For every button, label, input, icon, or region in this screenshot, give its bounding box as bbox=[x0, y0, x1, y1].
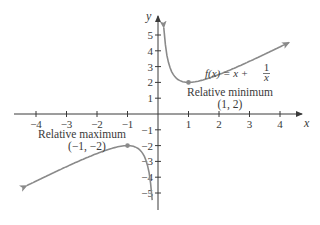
y-tick-label: −1 bbox=[141, 124, 153, 136]
y-tick-label: −2 bbox=[141, 140, 153, 152]
y-axis-label: y bbox=[145, 9, 152, 23]
x-axis-label: x bbox=[303, 116, 310, 130]
function-label-denominator: x bbox=[263, 71, 269, 83]
function-label-lhs: f(x) = x + bbox=[205, 67, 248, 80]
x-tick-label: 4 bbox=[277, 118, 283, 130]
y-tick-label: 5 bbox=[148, 29, 154, 41]
relative-minimum-label: Relative minimum bbox=[187, 86, 273, 98]
relative-maximum-point bbox=[125, 143, 130, 148]
x-tick-label: 3 bbox=[247, 118, 253, 130]
curve-negative-branch bbox=[27, 146, 152, 201]
relative-minimum-coords: (1, 2) bbox=[218, 98, 243, 111]
x-tick-label: 1 bbox=[186, 118, 192, 130]
y-tick-label: 4 bbox=[148, 45, 154, 57]
function-label: f(x) = x + 1 x bbox=[205, 61, 270, 83]
x-tick-label: 2 bbox=[216, 118, 222, 130]
relative-maximum-label: Relative maximum bbox=[38, 128, 126, 140]
function-graph: −4−3−2−11234 54321−1−2−3−4−5 x y f(x) = … bbox=[0, 0, 320, 225]
y-tick-label: −4 bbox=[141, 171, 153, 183]
y-tick-label: 1 bbox=[148, 92, 154, 104]
relative-minimum-point bbox=[186, 80, 191, 85]
y-tick-label: 2 bbox=[148, 76, 154, 88]
y-tick-label: 3 bbox=[148, 61, 154, 73]
relative-maximum-coords: (−1, −2) bbox=[68, 140, 106, 153]
